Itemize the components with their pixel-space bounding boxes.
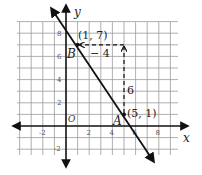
origin-label: O (68, 114, 76, 124)
y-tick: 8 (57, 30, 61, 38)
y-tick: 4 (57, 76, 62, 84)
x-tick: -2 (39, 129, 46, 137)
y-tick: 2 (57, 99, 61, 107)
rise-label: 6 (127, 84, 134, 97)
x-tick: 4 (110, 129, 115, 137)
x-tick: 8 (156, 129, 160, 137)
y-axis-label: y (73, 5, 81, 19)
x-tick: 2 (87, 129, 91, 137)
x-tick-labels: -2 2 4 6 8 (39, 129, 160, 137)
point-A-coords: (5, 1) (127, 107, 157, 120)
point-A-label: A (112, 114, 122, 128)
point-B-label: B (66, 47, 76, 61)
point-B-coords: (1, 7) (78, 29, 108, 42)
point-A (122, 112, 126, 116)
y-tick: 6 (57, 53, 62, 61)
y-tick: -2 (54, 145, 61, 153)
point-B (76, 43, 80, 47)
coordinate-plane: x y O -2 2 4 6 8 8 6 4 2 -2 B (1, 7) A (… (0, 0, 202, 175)
x-axis-label: x (183, 131, 190, 145)
run-label: − 4 (90, 47, 110, 60)
